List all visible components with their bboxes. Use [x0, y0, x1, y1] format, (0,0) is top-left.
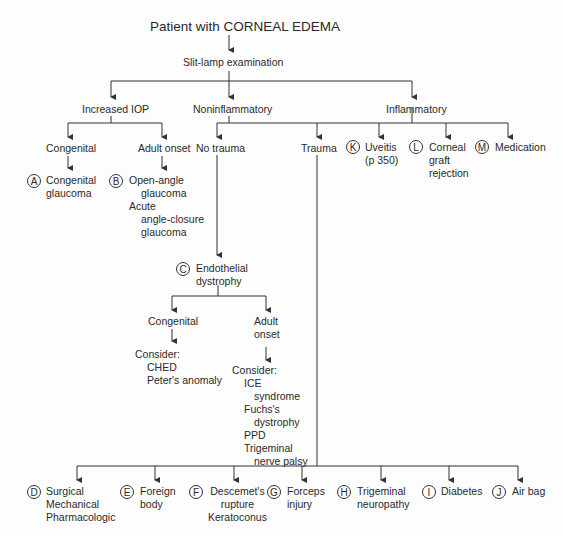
text-line: rupture — [208, 498, 267, 511]
adult-consider-list: Consider: ICE syndrome Fuchs's dystrophy… — [232, 364, 308, 468]
text-line: syndrome — [232, 390, 308, 403]
trauma-node: Trauma — [301, 142, 337, 155]
text-line: Acute — [129, 200, 204, 213]
node-f: Descemet's rupture Keratoconus — [208, 485, 267, 524]
badge-h: H — [337, 485, 351, 499]
node-a: Congenital glaucoma — [46, 174, 96, 200]
badge-f: F — [189, 485, 203, 499]
node-k: Uveitis (p 350) — [365, 141, 398, 167]
node-g: Forceps injury — [287, 485, 325, 511]
text-line: Adult — [254, 315, 280, 328]
node-h: Trigeminal neuropathy — [357, 485, 410, 511]
text-line: dystrophy — [232, 416, 308, 429]
badge-a: A — [27, 174, 41, 188]
badge-j: J — [492, 485, 506, 499]
text-line: graft — [429, 154, 469, 167]
text-line: Surgical — [46, 485, 115, 498]
text-line: glaucoma — [46, 187, 96, 200]
text-line: neuropathy — [357, 498, 410, 511]
text-line: Descemet's — [208, 485, 267, 498]
endo-adult-onset-node: Adult onset — [254, 315, 280, 341]
text-line: Air bag — [512, 485, 545, 498]
inflammatory-node: Inflammatory — [386, 103, 447, 116]
text-line: CHED — [135, 361, 222, 374]
badge-e: E — [120, 485, 134, 499]
text-line: Trigeminal — [357, 485, 410, 498]
node-l: Corneal graft rejection — [429, 141, 469, 180]
text-line: injury — [287, 498, 325, 511]
text-line: Peter's anomaly — [135, 374, 222, 387]
badge-d: D — [27, 485, 41, 499]
text-line: Medication — [495, 141, 546, 154]
root-title: Patient with CORNEAL EDEMA — [150, 20, 340, 33]
congenital-consider-list: Consider: CHED Peter's anomaly — [135, 348, 222, 387]
text-line: ICE — [232, 377, 308, 390]
text-line: glaucoma — [129, 226, 204, 239]
slit-lamp-node: Slit-lamp examination — [183, 56, 283, 69]
badge-l: L — [409, 140, 423, 154]
text-line: body — [140, 498, 176, 511]
text-line: Keratoconus — [208, 511, 267, 524]
iop-congenital-node: Congenital — [46, 142, 96, 155]
text-line: Foreign — [140, 485, 176, 498]
badge-i: I — [422, 485, 436, 499]
text-line: Uveitis — [365, 141, 398, 154]
badge-m: M — [475, 140, 489, 154]
text-line: nerve palsy — [232, 455, 308, 468]
text-line: Pharmacologic — [46, 511, 115, 524]
text-line: Diabetes — [441, 485, 482, 498]
increased-iop-node: Increased IOP — [82, 103, 149, 116]
node-m: Medication — [495, 141, 546, 154]
text-line: Consider: — [232, 364, 308, 377]
text-line: (p 350) — [365, 154, 398, 167]
corneal-edema-flowchart: Patient with CORNEAL EDEMA Slit-lamp exa… — [0, 0, 563, 536]
text-line: Fuchs's — [232, 403, 308, 416]
text-line: Consider: — [135, 348, 222, 361]
text-line: Endothelial — [196, 262, 248, 275]
badge-b: B — [109, 174, 123, 188]
text-line: angle-closure — [129, 213, 204, 226]
text-line: dystrophy — [196, 275, 248, 288]
text-line: Mechanical — [46, 498, 115, 511]
badge-g: G — [267, 485, 281, 499]
no-trauma-node: No trauma — [196, 142, 245, 155]
node-j: Air bag — [512, 485, 545, 498]
text-line: Open-angle — [129, 174, 204, 187]
text-line: Trigeminal — [232, 442, 308, 455]
node-b: Open-angle glaucoma Acute angle-closure … — [129, 174, 204, 239]
badge-c: C — [176, 262, 190, 276]
text-line: glaucoma — [129, 187, 204, 200]
badge-k: K — [346, 140, 360, 154]
text-line: Forceps — [287, 485, 325, 498]
endo-congenital-node: Congenital — [148, 315, 198, 328]
text-line: Congenital — [46, 174, 96, 187]
noninflammatory-node: Noninflammatory — [193, 103, 272, 116]
text-line: rejection — [429, 167, 469, 180]
text-line: onset — [254, 328, 280, 341]
node-i: Diabetes — [441, 485, 482, 498]
node-c: Endothelial dystrophy — [196, 262, 248, 288]
iop-adult-onset-node: Adult onset — [138, 142, 191, 155]
text-line: Corneal — [429, 141, 469, 154]
text-line: PPD — [232, 429, 308, 442]
node-e: Foreign body — [140, 485, 176, 511]
node-d: Surgical Mechanical Pharmacologic — [46, 485, 115, 524]
